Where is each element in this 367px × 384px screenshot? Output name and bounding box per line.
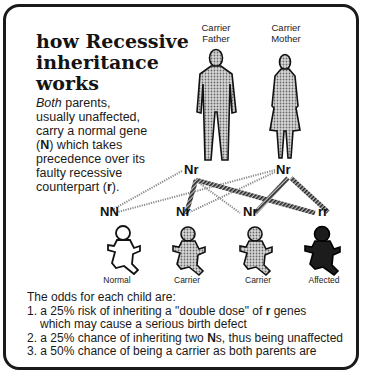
odds-item-1: 1. a 25% risk of inheriting a "double do… bbox=[27, 305, 343, 319]
child-4-label: Affected bbox=[294, 275, 354, 285]
odds-section: The odds for each child are: 1. a 25% ri… bbox=[27, 291, 343, 359]
father-genotype: Nr bbox=[184, 162, 198, 177]
baby-carrier-1-icon bbox=[173, 227, 205, 275]
baby-carrier-2-icon bbox=[240, 227, 272, 275]
mother-figure-icon bbox=[270, 55, 300, 159]
odds-heading: The odds for each child are: bbox=[27, 291, 343, 305]
odds-item-3: 3. a 50% chance of being a carrier as bo… bbox=[27, 345, 343, 359]
odds-item-2-text-end: s, thus being unaffected bbox=[216, 331, 343, 345]
child-3-label: Carrier bbox=[228, 275, 288, 285]
odds-item-1-text-end: genes bbox=[270, 304, 306, 318]
father-figure-icon bbox=[197, 50, 236, 161]
odds-item-2-text: 2. a 25% chance of inheriting two bbox=[27, 331, 207, 345]
odds-item-1-text: 1. a 25% risk of inheriting a "double do… bbox=[27, 304, 266, 318]
child-4-genotype: rr bbox=[318, 204, 328, 219]
mother-genotype: Nr bbox=[276, 162, 290, 177]
child-3-genotype: Nr bbox=[243, 204, 257, 219]
child-1-genotype: NN bbox=[100, 204, 119, 219]
baby-affected-icon bbox=[305, 227, 340, 276]
child-2-genotype: Nr bbox=[176, 204, 190, 219]
baby-normal-icon bbox=[108, 226, 140, 274]
odds-item-1-continued: which may cause a serious birth defect bbox=[27, 318, 343, 332]
child-2-label: Carrier bbox=[157, 275, 217, 285]
odds-item-2: 2. a 25% chance of inheriting two Ns, th… bbox=[27, 332, 343, 346]
child-1-label: Normal bbox=[87, 275, 147, 285]
odds-item-2-gene: N bbox=[207, 331, 216, 345]
